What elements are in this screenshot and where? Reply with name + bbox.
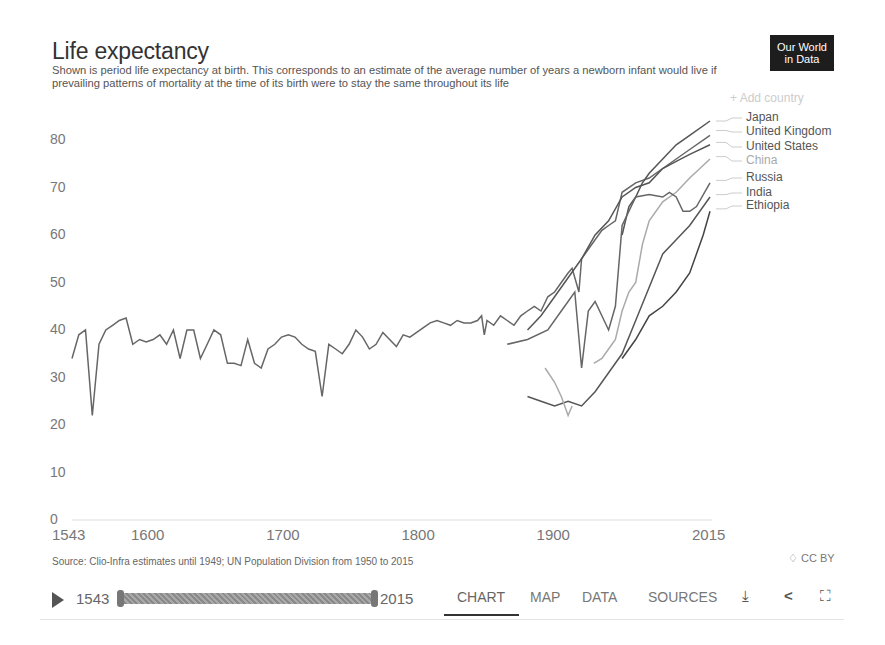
legend-connector: [716, 193, 742, 195]
tab-sources[interactable]: SOURCES: [648, 589, 717, 605]
chart-plot: [0, 0, 885, 645]
x-tick-label: 1600: [131, 526, 164, 543]
series-line[interactable]: [622, 121, 710, 235]
timeline-end-year: 2015: [380, 590, 413, 607]
legend-connector: [716, 157, 742, 161]
active-tab-indicator: [444, 614, 519, 616]
source-note: Source: Clio-Infra estimates until 1949;…: [52, 556, 413, 567]
tab-map[interactable]: MAP: [530, 589, 560, 605]
y-tick-label: 80: [50, 131, 66, 147]
y-tick-label: 30: [50, 369, 66, 385]
series-lines: [72, 121, 710, 416]
license-link[interactable]: ♢ CC BY: [788, 552, 835, 565]
footer-divider: [40, 619, 844, 620]
x-tick-label: 1543: [52, 526, 85, 543]
y-tick-label: 50: [50, 274, 66, 290]
legend-item-china[interactable]: China: [746, 153, 777, 167]
download-icon[interactable]: ⤓: [742, 587, 749, 605]
y-tick-label: 0: [50, 511, 58, 527]
legend-item-ethiopia[interactable]: Ethiopia: [746, 198, 789, 212]
legend-connector: [716, 142, 742, 147]
series-line[interactable]: [72, 135, 710, 415]
y-tick-label: 70: [50, 179, 66, 195]
legend-connector: [716, 118, 742, 121]
y-tick-label: 20: [50, 416, 66, 432]
timeline-start-year: 1543: [76, 590, 109, 607]
x-tick-label: 2015: [692, 526, 725, 543]
legend-connector: [716, 178, 742, 180]
series-line[interactable]: [528, 197, 711, 406]
timeline-slider[interactable]: [119, 593, 375, 604]
series-line[interactable]: [594, 159, 710, 363]
y-tick-label: 10: [50, 464, 66, 480]
legend-connector: [716, 131, 742, 133]
series-line[interactable]: [545, 368, 572, 416]
timeline-start-handle[interactable]: [117, 590, 124, 607]
x-tick-label: 1800: [401, 526, 434, 543]
legend-item-japan[interactable]: Japan: [746, 110, 779, 124]
legend-item-united-states[interactable]: United States: [746, 139, 818, 153]
x-tick-label: 1700: [266, 526, 299, 543]
series-line[interactable]: [507, 183, 710, 368]
timeline-end-handle[interactable]: [371, 590, 378, 607]
x-tick-label: 1900: [537, 526, 570, 543]
tab-data[interactable]: DATA: [582, 589, 617, 605]
fullscreen-icon[interactable]: ⛶: [820, 587, 831, 605]
share-icon[interactable]: <: [784, 587, 793, 604]
play-icon[interactable]: [52, 592, 64, 608]
series-line[interactable]: [622, 211, 710, 358]
tab-chart[interactable]: CHART: [457, 589, 505, 605]
legend-item-india[interactable]: India: [746, 185, 772, 199]
legend-connectors: [716, 118, 742, 209]
y-tick-label: 60: [50, 226, 66, 242]
legend-item-russia[interactable]: Russia: [746, 170, 783, 184]
legend-connector: [716, 206, 742, 209]
legend-item-united-kingdom[interactable]: United Kingdom: [746, 124, 831, 138]
y-tick-label: 40: [50, 321, 66, 337]
series-line[interactable]: [528, 145, 711, 330]
